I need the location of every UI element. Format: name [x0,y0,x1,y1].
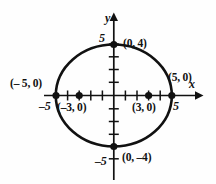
point-label-neg5-0: (– 5, 0) [10,78,42,90]
y-tick-label-neg5: –5 [95,155,107,167]
x-tick-label-neg5: –5 [39,100,51,112]
x-tick-label-5: 5 [173,100,179,112]
ellipse-figure: y x 5 –5 –5 5 (0, 4) (5, 0) (3, 0) (–3, … [0,0,216,184]
point-0-4 [110,41,117,48]
point-label-neg3-0: (–3, 0) [57,102,86,114]
point-neg3-0 [76,92,83,99]
point-label-0-neg4: (0, –4) [122,152,151,164]
y-axis-label: y [105,12,110,24]
x-axis-arrowhead [195,91,204,99]
point-neg5-0 [52,92,59,99]
graph-canvas [0,0,216,184]
point-label-3-0: (3, 0) [132,102,156,114]
point-label-0-4: (0, 4) [123,38,147,50]
point-0-neg4 [110,143,117,150]
point-label-5-0: (5, 0) [168,72,192,84]
y-tick-label-5: 5 [99,32,105,44]
point-3-0 [145,92,152,99]
y-axis-arrowhead [110,13,118,22]
